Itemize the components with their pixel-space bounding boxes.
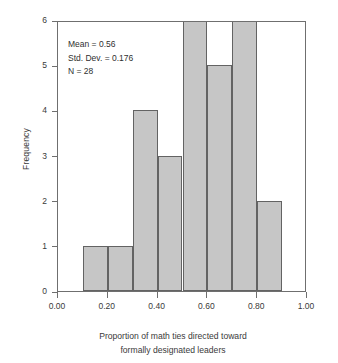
y-axis-tick-label: 4 xyxy=(13,105,47,115)
bar xyxy=(183,22,208,291)
y-axis-tick-label: 6 xyxy=(13,15,47,25)
x-axis-title-line-1: Proportion of math ties directed toward xyxy=(28,329,318,343)
x-axis-tick-label: 0.20 xyxy=(84,301,130,311)
bar xyxy=(83,246,108,291)
stat-std-dev: Std. Dev. = 0.176 xyxy=(68,52,133,66)
x-axis-tick-mark xyxy=(256,292,257,298)
x-axis-tick-label: 0.40 xyxy=(134,301,180,311)
x-axis-title: Proportion of math ties directed toward … xyxy=(28,329,318,357)
x-axis-tick-label: 0.60 xyxy=(183,301,229,311)
bar xyxy=(158,156,183,292)
x-axis-tick-mark xyxy=(306,292,307,298)
y-axis-tick-label: 5 xyxy=(13,60,47,70)
bar xyxy=(133,110,158,291)
x-axis-tick-label: 1.00 xyxy=(283,301,329,311)
x-axis-tick-mark xyxy=(157,292,158,298)
statistics-annotation: Mean = 0.56 Std. Dev. = 0.176 N = 28 xyxy=(68,38,133,79)
x-axis-tick-mark xyxy=(107,292,108,298)
x-axis-tick-mark xyxy=(57,292,58,298)
x-axis-tick-label: 0.80 xyxy=(233,301,279,311)
stat-n: N = 28 xyxy=(68,65,133,79)
bar xyxy=(207,65,232,291)
x-axis-tick-label: 0.00 xyxy=(34,301,80,311)
bar xyxy=(232,22,257,291)
x-axis-tick-mark xyxy=(206,292,207,298)
bar xyxy=(108,246,133,291)
bar xyxy=(257,201,282,291)
stat-mean: Mean = 0.56 xyxy=(68,38,133,52)
y-axis-tick-label: 1 xyxy=(13,241,47,251)
y-axis-tick-label: 2 xyxy=(13,196,47,206)
y-axis-tick-label: 0 xyxy=(13,286,47,296)
histogram-figure: Frequency 0123456 0.000.200.400.600.801.… xyxy=(0,0,338,363)
x-axis-title-line-2: formally designated leaders xyxy=(28,343,318,357)
y-axis-tick-label: 3 xyxy=(13,151,47,161)
